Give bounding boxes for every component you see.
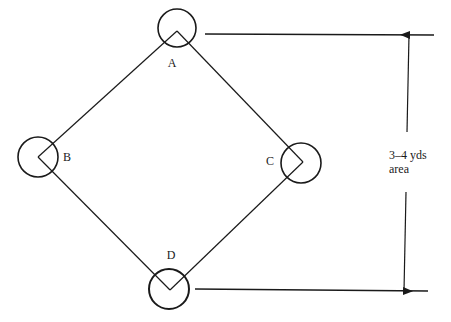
edge-a-b xyxy=(38,31,177,157)
edge-b-d xyxy=(38,157,170,290)
base-label-a: A xyxy=(168,56,177,70)
base-label-c: C xyxy=(266,154,274,168)
distance-label-line1: 3–4 yds xyxy=(389,148,427,162)
upper-arrow-icon xyxy=(407,35,409,132)
base-circle-c xyxy=(281,143,321,183)
base-label-d: D xyxy=(167,248,176,262)
drill-diagram: A B C D 3–4 yds area xyxy=(0,0,451,322)
base-labels: A B C D xyxy=(63,56,274,262)
base-label-b: B xyxy=(63,150,71,164)
measurement: 3–4 yds area xyxy=(195,34,434,291)
distance-label-line2: area xyxy=(389,162,410,176)
base-circle-a xyxy=(158,9,196,47)
edge-c-d xyxy=(170,162,303,290)
edge-a-c xyxy=(177,31,303,162)
lower-arrow-icon xyxy=(404,192,406,291)
top-reference-line xyxy=(205,34,434,35)
bottom-reference-line xyxy=(195,289,428,291)
